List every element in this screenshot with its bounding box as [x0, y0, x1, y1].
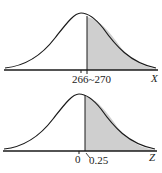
normal-curve-x-panel: 266~270 X — [0, 0, 162, 88]
x-axis-label: X — [151, 73, 158, 84]
bell-curve — [4, 94, 155, 149]
z-axis-label: Z — [149, 152, 155, 163]
bell-curve — [5, 13, 156, 68]
tick-label-0: 0 — [75, 154, 81, 165]
normal-curve-z-panel: 0 0.25 Z — [0, 86, 162, 173]
normal-curve-z-graphic — [0, 86, 162, 173]
shaded-right-tail — [85, 96, 155, 151]
tick-label-0-25: 0.25 — [89, 155, 108, 166]
shaded-right-tail — [87, 17, 156, 70]
tick-label-266-270: 266~270 — [72, 74, 111, 85]
